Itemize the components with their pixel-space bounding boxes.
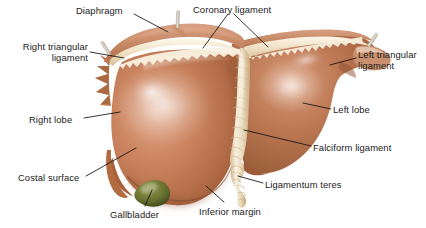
right-lobe-highlight-core — [132, 77, 172, 107]
liver-anatomy-figure: Diaphragm Coronary ligament Right triang… — [0, 0, 426, 228]
leader-ligamentum-teres — [238, 176, 263, 183]
label-left-triangular-ligament: Left triangular ligament — [358, 49, 424, 71]
label-ligamentum-teres: Ligamentum teres — [265, 179, 342, 190]
label-gallbladder: Gallbladder — [110, 209, 159, 220]
label-costal-surface: Costal surface — [18, 172, 79, 183]
right-lobe-group — [111, 50, 243, 207]
label-falciform-ligament: Falciform ligament — [313, 142, 391, 153]
label-right-lobe: Right lobe — [29, 114, 72, 125]
ligamentum-teres-group — [231, 161, 246, 207]
label-coronary-ligament: Coronary ligament — [193, 4, 271, 15]
label-right-triangular-ligament: Right triangular ligament — [2, 41, 88, 63]
left-lobe-highlight — [257, 60, 325, 112]
right-lobe-highlight — [114, 65, 212, 145]
label-diaphragm: Diaphragm — [76, 5, 123, 16]
scallop-edge-shade — [95, 66, 110, 104]
label-left-lobe: Left lobe — [333, 104, 370, 115]
label-inferior-margin: Inferior margin — [199, 206, 261, 217]
peg-left — [100, 40, 111, 55]
